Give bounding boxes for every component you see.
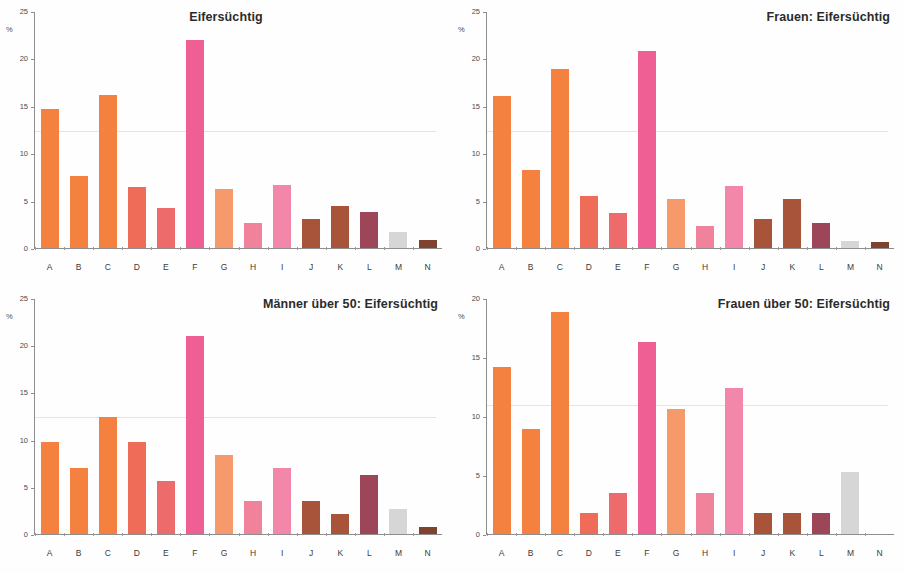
x-tick-label: E <box>603 263 632 272</box>
x-tick-label: B <box>64 549 93 558</box>
bar-slot <box>603 299 632 534</box>
bar-D <box>580 196 598 248</box>
x-tick-mark <box>516 533 545 536</box>
bar-slot <box>180 299 209 534</box>
y-tick-mark <box>31 107 34 108</box>
bar-L <box>812 513 830 534</box>
x-tick-mark <box>93 247 122 250</box>
x-tick-label: B <box>516 549 545 558</box>
bar-E <box>609 493 627 534</box>
bar-slot <box>297 299 326 534</box>
bar-slot <box>632 12 661 248</box>
x-tick-label: I <box>720 263 749 272</box>
y-axis-unit-label: % <box>6 26 13 34</box>
bar-slot <box>122 12 151 248</box>
bar-F <box>186 40 204 248</box>
bar-slot <box>836 12 865 248</box>
x-tick-mark <box>384 533 413 536</box>
bar-slot <box>268 299 297 534</box>
x-tick-mark <box>297 247 326 250</box>
bar-slot <box>93 12 122 248</box>
y-tick-label: 20 <box>4 342 28 350</box>
plot-area: 0510152025% <box>34 12 442 249</box>
bar-series <box>35 299 442 534</box>
bar-L <box>360 212 378 248</box>
y-tick-mark <box>483 202 486 203</box>
y-tick-mark <box>31 488 34 489</box>
x-tick-mark <box>355 533 384 536</box>
bar-slot <box>151 12 180 248</box>
y-tick-label: 15 <box>456 103 480 111</box>
y-tick-label: 5 <box>4 198 28 206</box>
x-tick-label: E <box>151 263 180 272</box>
x-tick-label: G <box>661 263 690 272</box>
y-axis-unit-label: % <box>458 26 465 34</box>
y-tick-mark <box>483 249 486 250</box>
x-tick-label: H <box>239 263 268 272</box>
x-tick-mark <box>574 247 603 250</box>
y-axis-unit-label: % <box>6 313 13 321</box>
y-tick-label: 25 <box>4 8 28 16</box>
bar-slot <box>545 12 574 248</box>
bar-slot <box>268 12 297 248</box>
y-tick-label: 0 <box>456 245 480 253</box>
x-tick-label: A <box>35 549 64 558</box>
bar-H <box>696 226 714 248</box>
x-tick-label: K <box>778 263 807 272</box>
bar-C <box>99 417 117 535</box>
bar-slot <box>778 299 807 534</box>
x-tick-row <box>35 533 442 536</box>
x-tick-mark <box>865 533 894 536</box>
x-axis-labels: ABCDEFGHIJKLMN <box>35 263 442 272</box>
x-tick-label: M <box>836 549 865 558</box>
x-tick-mark <box>384 247 413 250</box>
x-tick-mark <box>209 533 238 536</box>
x-tick-label: D <box>574 549 603 558</box>
bar-slot <box>326 299 355 534</box>
x-tick-label: J <box>749 549 778 558</box>
x-tick-label: G <box>209 263 238 272</box>
x-tick-label: E <box>603 549 632 558</box>
y-tick-mark <box>31 441 34 442</box>
x-tick-mark <box>355 247 384 250</box>
x-tick-label: C <box>545 549 574 558</box>
bar-slot <box>64 299 93 534</box>
x-tick-label: K <box>326 549 355 558</box>
x-tick-mark <box>603 247 632 250</box>
bar-slot <box>865 12 894 248</box>
bar-E <box>157 208 175 248</box>
y-tick-mark <box>31 249 34 250</box>
y-tick-mark <box>483 358 486 359</box>
bar-series <box>487 12 894 248</box>
bar-G <box>667 409 685 534</box>
bar-slot <box>487 12 516 248</box>
bar-slot <box>35 12 64 248</box>
x-axis-labels: ABCDEFGHIJKLMN <box>487 263 894 272</box>
bar-slot <box>807 12 836 248</box>
x-tick-label: A <box>35 263 64 272</box>
bar-slot <box>574 299 603 534</box>
bar-slot <box>413 299 442 534</box>
x-tick-label: N <box>413 263 442 272</box>
y-tick-label: 20 <box>4 56 28 64</box>
bar-E <box>609 213 627 248</box>
bar-slot <box>720 299 749 534</box>
x-tick-mark <box>122 533 151 536</box>
bar-slot <box>413 12 442 248</box>
y-tick-mark <box>483 535 486 536</box>
x-tick-mark <box>545 247 574 250</box>
chart-panel-bottom-right: Frauen über 50: Eifersüchtig05101520%ABC… <box>452 287 904 573</box>
bar-slot <box>209 299 238 534</box>
bar-slot <box>64 12 93 248</box>
y-tick-mark <box>483 476 486 477</box>
bar-G <box>215 189 233 248</box>
bar-slot <box>516 12 545 248</box>
bar-I <box>273 185 291 248</box>
x-tick-label: C <box>545 263 574 272</box>
bar-slot <box>749 12 778 248</box>
bar-slot <box>516 299 545 534</box>
x-tick-mark <box>326 533 355 536</box>
x-tick-label: L <box>807 549 836 558</box>
bar-G <box>667 199 685 248</box>
bar-F <box>638 51 656 248</box>
